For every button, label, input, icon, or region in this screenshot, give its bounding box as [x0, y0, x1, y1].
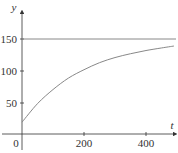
- y-tick-label: 150: [1, 33, 18, 45]
- y-axis-label: y: [11, 1, 17, 13]
- y-tick-label: 100: [1, 65, 18, 77]
- x-axis-label: t: [170, 119, 174, 131]
- axes: [2, 12, 175, 150]
- y-tick-label: 50: [6, 97, 18, 109]
- chart: 020040050100150 t y: [0, 0, 178, 153]
- curve-line: [22, 46, 174, 122]
- x-tick-label: 400: [138, 137, 155, 149]
- series: [22, 39, 176, 122]
- x-tick-label: 0: [13, 137, 19, 149]
- x-tick-label: 200: [76, 137, 93, 149]
- ticks: 020040050100150: [1, 33, 155, 149]
